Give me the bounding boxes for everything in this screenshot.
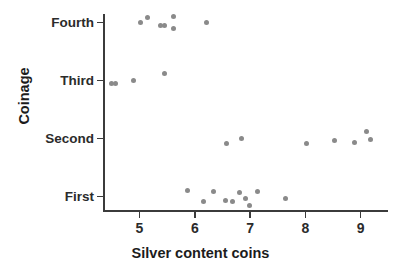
x-tick-label: 7 [230, 220, 270, 236]
data-point [162, 23, 167, 28]
data-point [145, 15, 150, 20]
data-point [243, 196, 248, 201]
data-point [239, 136, 244, 141]
data-point [138, 20, 143, 25]
y-axis-tick-labels: FourthThirdSecondFirst [0, 0, 94, 220]
data-point [304, 141, 309, 146]
data-point [224, 141, 229, 146]
y-tick-mark [97, 22, 103, 24]
data-point [247, 203, 252, 208]
x-tick-label: 8 [285, 220, 325, 236]
x-axis-title: Silver content coins [0, 245, 401, 261]
data-point [211, 189, 216, 194]
y-tick-mark [97, 80, 103, 82]
data-point [171, 26, 176, 31]
data-point [230, 199, 235, 204]
y-axis-title: Coinage [16, 36, 32, 156]
data-point [113, 81, 118, 86]
data-point [223, 198, 228, 203]
scatter-chart: 56789 FourthThirdSecondFirst Silver cont… [0, 0, 401, 270]
y-tick-label: Fourth [51, 15, 94, 30]
y-tick-mark [97, 196, 103, 198]
x-tick-label: 6 [175, 220, 215, 236]
x-tick-mark [194, 212, 196, 218]
data-point [204, 20, 209, 25]
x-tick-mark [360, 212, 362, 218]
data-point [171, 14, 176, 19]
y-tick-mark [97, 138, 103, 140]
data-point [131, 78, 136, 83]
x-tick-label: 5 [120, 220, 160, 236]
data-point [255, 189, 260, 194]
data-point [332, 138, 337, 143]
data-point [364, 129, 369, 134]
data-point [237, 190, 242, 195]
x-tick-mark [139, 212, 141, 218]
x-axis-line [103, 210, 388, 212]
y-tick-label: Second [45, 131, 94, 146]
data-point [162, 71, 167, 76]
data-point [283, 196, 288, 201]
y-tick-label: First [65, 189, 94, 204]
data-point [368, 137, 373, 142]
x-tick-label: 9 [341, 220, 381, 236]
x-tick-mark [249, 212, 251, 218]
data-point [185, 188, 190, 193]
data-point [352, 140, 357, 145]
y-tick-label: Third [60, 73, 94, 88]
y-axis-line [103, 14, 105, 212]
data-point [201, 199, 206, 204]
x-tick-mark [305, 212, 307, 218]
